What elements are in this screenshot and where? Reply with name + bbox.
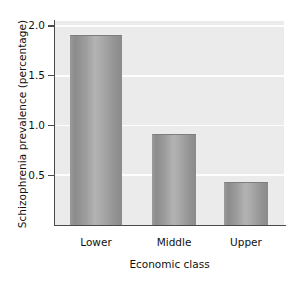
- y-axis-tick-label: 1.5: [5, 70, 45, 81]
- y-axis-tick-mark: [48, 25, 54, 26]
- x-axis-tick-label: Upper: [201, 236, 291, 248]
- y-axis-tick-label: 0.5: [5, 170, 45, 181]
- x-axis-spine: [54, 225, 286, 226]
- y-axis-tick-mark: [48, 75, 54, 76]
- bar-chart-figure: Schizophrenia prevalence (percentage) Ec…: [0, 0, 302, 283]
- bar-lower: [70, 35, 122, 225]
- y-axis-tick-mark: [48, 175, 54, 176]
- x-axis-tick-label: Lower: [51, 236, 141, 248]
- y-axis-tick-mark: [48, 125, 54, 126]
- bar-middle: [152, 134, 196, 225]
- gridline: [55, 25, 284, 27]
- x-axis-title: Economic class: [55, 258, 284, 270]
- y-axis-tick-label: 1.0: [5, 120, 45, 131]
- bar-upper: [224, 182, 268, 225]
- plot-area: [55, 21, 284, 225]
- y-axis-tick-label: 2.0: [5, 20, 45, 31]
